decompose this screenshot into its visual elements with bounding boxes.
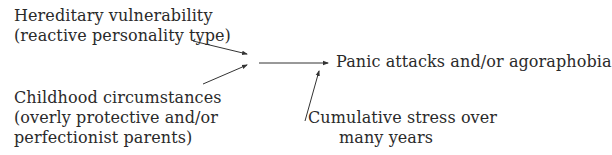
node-cumulative-stress: Cumulative stress over many years [308,108,497,148]
node-childhood-line2: (overly protective and/or [14,108,222,128]
node-hereditary-vulnerability: Hereditary vulnerability (reactive perso… [14,6,231,46]
node-stress-line2: many years [308,128,497,148]
node-childhood-line1: Childhood circumstances [14,88,222,108]
node-stress-line1: Cumulative stress over [308,108,497,127]
arrow-childhood-to-junction [203,65,247,84]
node-panic-attacks-outcome: Panic attacks and/or agoraphobia [336,52,612,72]
node-outcome-line1: Panic attacks and/or agoraphobia [336,52,612,72]
node-childhood-circumstances: Childhood circumstances (overly protecti… [14,88,222,148]
node-hereditary-line2: (reactive personality type) [14,26,231,46]
node-hereditary-line1: Hereditary vulnerability [14,6,231,26]
node-childhood-line3: perfectionist parents) [14,128,222,148]
